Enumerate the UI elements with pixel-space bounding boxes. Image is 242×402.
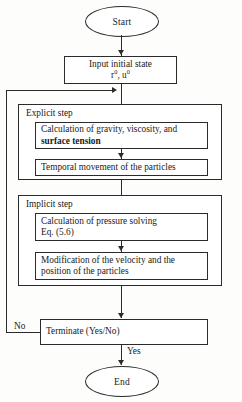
implicit-step-1-line2: Eq. (5.6) <box>41 227 202 238</box>
edge-label-no: No <box>14 321 25 331</box>
feedback-line-horizontal-top <box>6 90 112 91</box>
implicit-step-2-box: Modification of the velocity and the pos… <box>35 252 208 280</box>
feedback-line-vertical <box>6 90 7 332</box>
implicit-step-group-label: Implicit step <box>26 199 73 209</box>
explicit-step-group-label: Explicit step <box>26 108 73 118</box>
implicit-step-1-line1: Calculation of pressure solving <box>41 216 202 227</box>
explicit-step-1-box: Calculation of gravity, viscosity, and s… <box>35 122 208 149</box>
feedback-line-horizontal-bottom <box>6 332 40 333</box>
terminate-decision-label: Terminate (Yes/No) <box>46 326 202 337</box>
implicit-step-2-line1: Modification of the velocity and the <box>41 255 202 266</box>
arrowhead-start-to-input <box>118 50 124 55</box>
arrowhead-explicit-1-to-2 <box>118 153 124 158</box>
explicit-step-1-line1: Calculation of gravity, viscosity, and <box>41 124 202 135</box>
explicit-step-1-line2: surface tension <box>41 136 202 147</box>
input-initial-state-box: Input initial state r0, u0 <box>64 56 177 84</box>
flowchart-diagram: Start Input initial state r0, u0 No Expl… <box>0 0 242 402</box>
arrowhead-terminate-to-end <box>118 360 124 365</box>
edge-label-yes: Yes <box>127 346 141 356</box>
implicit-step-1-box: Calculation of pressure solving Eq. (5.6… <box>35 213 208 241</box>
input-initial-state-variables: r0, u0 <box>111 70 130 81</box>
arrowhead-feedback-to-trunk <box>112 87 117 93</box>
implicit-step-2-line2: position of the particles <box>41 266 202 277</box>
explicit-step-2-box: Temporal movement of the particles <box>35 159 208 176</box>
start-node: Start <box>85 6 159 37</box>
variable-u-superscript: 0 <box>127 68 130 75</box>
start-node-label: Start <box>113 17 132 27</box>
arrowhead-implicit-1-to-2 <box>118 246 124 251</box>
input-initial-state-line1: Input initial state <box>89 59 152 70</box>
end-node: End <box>85 366 159 397</box>
explicit-step-2-line1: Temporal movement of the particles <box>41 162 202 173</box>
end-node-label: End <box>114 377 130 387</box>
terminate-decision-box: Terminate (Yes/No) <box>40 319 208 345</box>
arrowhead-implicit-to-terminate <box>118 313 124 318</box>
